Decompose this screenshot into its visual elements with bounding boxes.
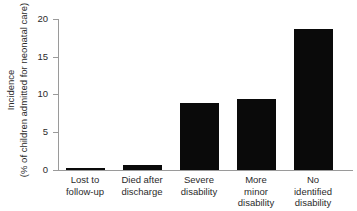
- y-axis-title-line-1: Incidence: [5, 3, 18, 177]
- y-axis-line: [58, 19, 59, 171]
- bar-died-after-discharge: [123, 165, 162, 170]
- y-axis-title: Incidence (% of children admitted for ne…: [0, 0, 34, 180]
- y-tick-mark-10: [53, 94, 58, 95]
- bar-severe-disability: [180, 103, 219, 170]
- x-axis-line: [58, 170, 353, 171]
- y-tick-label-5: 5: [43, 127, 48, 137]
- y-axis-title-line-2: (% of children admitted for neonatal car…: [17, 3, 30, 177]
- y-tick-label-15: 15: [37, 52, 48, 62]
- bar-lost-to-follow-up: [66, 168, 105, 170]
- y-tick-mark-15: [53, 57, 58, 58]
- y-axis-title-text: Incidence (% of children admitted for ne…: [5, 3, 30, 177]
- y-tick-label-10: 10: [37, 89, 48, 99]
- bar-more-minor-disability: [237, 99, 276, 170]
- y-tick-label-20: 20: [37, 14, 48, 24]
- y-tick-mark-5: [53, 132, 58, 133]
- bar-no-identified-disability: [294, 29, 333, 170]
- x-tick-label-no-identified-disability: Noidentifieddisability: [273, 174, 353, 209]
- y-tick-mark-20: [53, 19, 58, 20]
- y-tick-mark-0: [53, 170, 58, 171]
- bar-chart-figure: Incidence (% of children admitted for ne…: [0, 0, 357, 211]
